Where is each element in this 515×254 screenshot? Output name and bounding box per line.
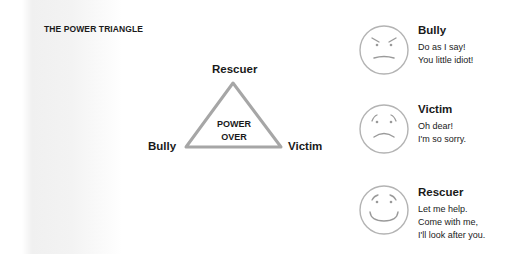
role-card-victim: Victim Oh dear! I'm so sorry. <box>358 103 515 163</box>
sad-face-icon <box>358 103 410 155</box>
quote-line: I'll look after you. <box>418 229 485 242</box>
quote-line: I'm so sorry. <box>418 133 466 146</box>
role-card-rescuer: Rescuer Let me help. Come with me, I'll … <box>358 186 515 246</box>
role-quote: Let me help. Come with me, I'll look aft… <box>418 203 485 242</box>
quote-line: Do as I say! <box>418 41 473 54</box>
triangle-label-bully: Bully <box>148 140 176 152</box>
role-quote: Do as I say! You little idiot! <box>418 41 473 67</box>
quote-line: Oh dear! <box>418 120 466 133</box>
triangle-label-victim: Victim <box>288 140 322 152</box>
center-line-1: POWER <box>213 118 255 131</box>
role-quote: Oh dear! I'm so sorry. <box>418 120 466 146</box>
quote-line: You little idiot! <box>418 54 473 67</box>
role-name: Bully <box>418 24 446 36</box>
angry-face-icon <box>358 24 410 76</box>
quote-line: Come with me, <box>418 216 485 229</box>
quote-line: Let me help. <box>418 203 485 216</box>
triangle-label-rescuer: Rescuer <box>212 63 257 75</box>
role-name: Rescuer <box>418 186 463 198</box>
role-name: Victim <box>418 103 452 115</box>
role-card-bully: Bully Do as I say! You little idiot! <box>358 24 515 84</box>
center-line-2: OVER <box>213 131 255 144</box>
smiling-face-icon <box>358 184 410 236</box>
triangle-center-label: POWER OVER <box>213 118 255 144</box>
